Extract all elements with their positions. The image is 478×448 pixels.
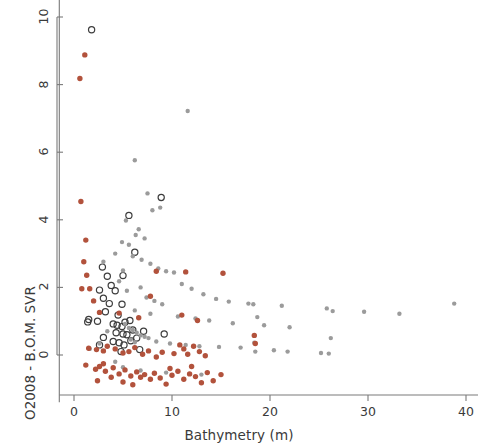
data-point xyxy=(331,309,335,313)
data-point xyxy=(110,338,116,344)
data-point xyxy=(253,349,257,353)
data-point xyxy=(95,378,100,383)
data-point xyxy=(197,344,201,348)
x-tick-label: 30 xyxy=(356,404,380,419)
data-point xyxy=(113,330,119,336)
data-point xyxy=(79,286,84,291)
data-point xyxy=(94,318,100,324)
data-point xyxy=(231,321,235,325)
data-point xyxy=(131,254,135,258)
x-axis-title: Bathymetry (m) xyxy=(0,427,478,443)
data-point xyxy=(120,379,125,384)
data-point xyxy=(136,315,141,320)
data-point xyxy=(327,351,331,355)
data-point xyxy=(179,312,184,317)
data-point xyxy=(124,332,130,338)
data-point xyxy=(109,375,114,380)
data-point xyxy=(325,306,329,310)
data-point xyxy=(96,287,102,293)
data-point xyxy=(148,377,153,382)
data-point xyxy=(82,52,87,57)
data-point xyxy=(218,372,223,377)
data-point xyxy=(154,269,159,274)
data-point xyxy=(158,375,163,380)
data-point xyxy=(152,371,157,376)
y-tick-label: 8 xyxy=(36,74,51,94)
data-point xyxy=(161,331,167,337)
plot-frame xyxy=(57,0,478,402)
x-tick-label: 40 xyxy=(454,404,478,419)
x-tick-label: 20 xyxy=(258,404,282,419)
data-point xyxy=(207,318,211,322)
data-point xyxy=(121,268,125,272)
data-point xyxy=(113,251,117,255)
plot-canvas xyxy=(0,0,478,448)
data-point xyxy=(158,194,164,200)
data-point xyxy=(253,341,258,346)
data-point xyxy=(164,269,168,273)
data-point xyxy=(124,218,128,222)
data-point xyxy=(131,328,135,332)
data-point xyxy=(285,349,289,353)
data-point xyxy=(83,362,88,367)
data-point xyxy=(329,336,333,340)
data-point xyxy=(251,302,255,306)
series-dark-open-circle xyxy=(85,27,168,355)
data-point xyxy=(134,369,139,374)
data-point xyxy=(126,349,131,354)
data-point xyxy=(187,371,192,376)
data-point xyxy=(158,205,162,209)
data-point xyxy=(100,295,106,301)
data-point xyxy=(154,354,159,359)
data-point xyxy=(78,199,83,204)
data-point xyxy=(163,381,168,386)
data-point xyxy=(181,377,186,382)
data-point xyxy=(84,273,89,278)
data-point xyxy=(77,76,82,81)
data-point xyxy=(227,299,231,303)
data-point xyxy=(397,312,401,316)
data-point xyxy=(145,191,149,195)
data-point xyxy=(97,341,101,345)
data-point xyxy=(133,158,137,162)
data-point xyxy=(452,301,456,305)
data-point xyxy=(150,208,154,212)
data-point xyxy=(205,370,210,375)
data-point xyxy=(146,336,150,340)
data-point xyxy=(102,309,108,315)
data-point xyxy=(97,310,102,315)
data-point xyxy=(362,310,366,314)
data-point xyxy=(180,282,184,286)
data-point xyxy=(160,350,165,355)
data-point xyxy=(255,315,259,319)
data-point xyxy=(201,292,205,296)
data-point xyxy=(189,364,194,369)
data-point xyxy=(262,323,266,327)
data-point xyxy=(129,337,133,341)
data-point xyxy=(137,227,141,231)
data-point xyxy=(280,304,284,308)
data-points xyxy=(77,27,456,388)
series-gray-filled xyxy=(88,109,457,377)
data-point xyxy=(172,270,176,274)
data-point xyxy=(142,236,146,240)
data-point xyxy=(252,333,257,338)
data-point xyxy=(127,326,131,330)
data-point xyxy=(152,299,156,303)
data-point xyxy=(122,367,127,372)
data-point xyxy=(89,27,95,33)
data-point xyxy=(134,233,138,237)
data-point xyxy=(112,288,118,294)
data-point xyxy=(199,372,203,376)
data-point xyxy=(171,351,176,356)
axis-ticks xyxy=(57,17,466,401)
data-point xyxy=(319,351,323,355)
data-point xyxy=(203,353,208,358)
data-point xyxy=(195,318,200,323)
data-point xyxy=(154,339,158,343)
data-point xyxy=(127,243,131,247)
data-point xyxy=(138,285,142,289)
data-point xyxy=(120,240,124,244)
data-point xyxy=(140,352,145,357)
data-point xyxy=(185,352,190,357)
